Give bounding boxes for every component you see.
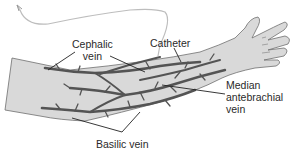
label-line: Cephalic <box>72 38 113 50</box>
catheter-label: Catheter <box>150 37 190 49</box>
label-line: antebrachial <box>226 91 283 103</box>
basilic-vein-label: Basilic vein <box>96 138 149 150</box>
basilic-leader-left <box>72 118 122 132</box>
basilic-leader-right <box>122 112 140 132</box>
label-line: vein <box>72 50 113 62</box>
label-line: Median <box>226 79 283 91</box>
label-line: vein <box>226 103 283 115</box>
forearm-vein-diagram <box>0 0 298 156</box>
cephalic-leader-left <box>48 52 75 70</box>
cephalic-vein-label: Cephalic vein <box>72 38 113 62</box>
median-antebrachial-vein-label: Median antebrachial vein <box>226 79 283 115</box>
